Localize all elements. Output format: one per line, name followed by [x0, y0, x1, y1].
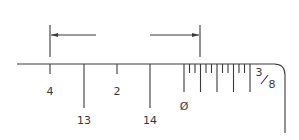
tick-label-14: 14 — [143, 114, 157, 127]
scale-denominator: 8 — [269, 78, 276, 91]
left-dimension-arrow — [51, 33, 96, 37]
right-dimension-arrow — [150, 33, 199, 37]
tick-label-4: 4 — [47, 85, 54, 98]
tick-label-13: 13 — [77, 114, 91, 127]
arrowhead-left-icon — [51, 33, 58, 37]
scale-marker-3-8: 3 8 — [256, 66, 276, 91]
arrowhead-right-icon — [192, 33, 199, 37]
scale-diagram: 4 13 2 14 Ø 3 8 — [0, 0, 299, 140]
scale-numerator: 3 — [256, 66, 263, 79]
main-ticks — [50, 64, 150, 108]
zero-label: Ø — [180, 100, 189, 113]
fine-scale-ticks — [184, 64, 250, 92]
tick-label-2: 2 — [114, 85, 121, 98]
